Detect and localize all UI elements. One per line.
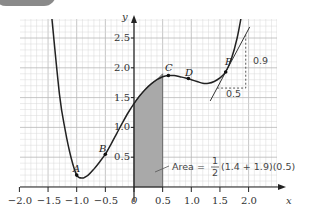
rise-label: 0.9 bbox=[253, 55, 268, 66]
y-tick-label: 0.5 bbox=[114, 151, 130, 162]
y-axis-label: y bbox=[121, 11, 128, 22]
x-tick-label: 2.0 bbox=[241, 195, 257, 206]
graph: x y 0 −2.0 −1.5 −1.0 −0.5 0.5 1.0 1.5 2.… bbox=[0, 0, 319, 214]
y-tick-label: 1.5 bbox=[114, 92, 130, 103]
x-tick-label: −2.0 bbox=[8, 195, 32, 206]
x-tick-label: 0.5 bbox=[155, 195, 171, 206]
point-label-a: A bbox=[72, 163, 80, 174]
x-tick-label: −0.5 bbox=[94, 195, 118, 206]
y-tick-label: 2.0 bbox=[114, 62, 130, 73]
x-tick-label: −1.0 bbox=[65, 195, 89, 206]
area-label-suffix: (1.4 + 1.9)(0.5) bbox=[221, 161, 295, 172]
x-axis-label: x bbox=[286, 195, 292, 206]
origin-label: 0 bbox=[131, 195, 138, 206]
point-label-b: B bbox=[98, 143, 106, 154]
point-c-marker bbox=[167, 74, 171, 78]
x-ticks bbox=[19, 187, 248, 192]
point-label-d: D bbox=[184, 67, 193, 78]
y-tick-label: 2.5 bbox=[114, 32, 130, 43]
y-tick-labels: 0.5 1.0 1.5 2.0 2.5 bbox=[114, 32, 130, 162]
area-frac-numerator: 1 bbox=[212, 155, 218, 166]
point-p-marker bbox=[224, 70, 228, 74]
run-label: 0.5 bbox=[226, 88, 241, 99]
x-axis-arrow-icon bbox=[278, 184, 286, 190]
y-axis-arrow-icon bbox=[131, 15, 137, 23]
point-label-c: C bbox=[165, 62, 173, 73]
area-frac-denominator: 2 bbox=[212, 167, 218, 178]
x-tick-label: 1.5 bbox=[212, 195, 228, 206]
x-tick-label: −1.5 bbox=[37, 195, 61, 206]
shaded-area bbox=[134, 74, 163, 187]
y-tick-label: 1.0 bbox=[114, 121, 130, 132]
point-label-p: P bbox=[224, 56, 232, 67]
area-label-prefix: Area = bbox=[172, 161, 205, 172]
x-tick-label: 1.0 bbox=[184, 195, 200, 206]
